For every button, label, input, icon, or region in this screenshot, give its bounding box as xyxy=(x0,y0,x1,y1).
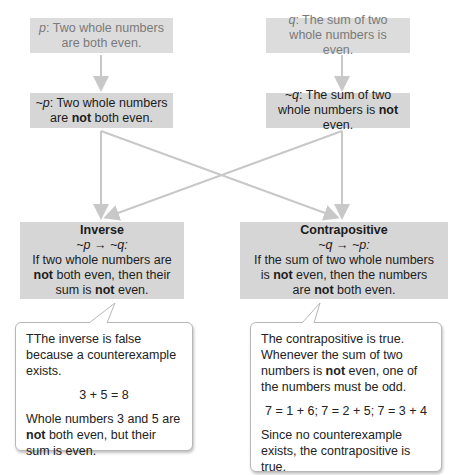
contrapositive-callout: The contrapositive is true. Whenever the… xyxy=(250,322,442,472)
contrapositive-form: ~q → ~p: xyxy=(318,238,369,253)
inverse-callout-tail xyxy=(85,302,125,324)
not-p-bold: not xyxy=(72,111,91,125)
inverse-line3a: sum is xyxy=(55,283,95,297)
inverse-note-equation: 3 + 5 = 8 xyxy=(26,387,182,403)
inverse-note-text-a: Whole numbers 3 and 5 are xyxy=(26,412,180,426)
contrapositive-title: Contrapositive xyxy=(300,223,388,238)
contrapositive-line1: If the sum of two whole numbers xyxy=(254,253,434,268)
inverse-form: ~p → ~q: xyxy=(76,238,127,253)
contrapositive-note-bold: not xyxy=(326,364,345,378)
symbol-not-p: ~p xyxy=(35,96,49,110)
inverse-title: Inverse xyxy=(80,223,124,238)
contrapositive-note-equation: 7 = 1 + 6; 7 = 2 + 5; 7 = 3 + 4 xyxy=(261,403,431,419)
contrapositive-bold2: not xyxy=(314,283,333,297)
statement-q-text: : The sum of two whole numbers is even. xyxy=(289,13,387,57)
arrow-not-p-to-contrapositive xyxy=(101,131,336,217)
arrow-not-q-to-inverse xyxy=(107,131,342,217)
contrapositive-line3b: both even. xyxy=(334,283,396,297)
contrapositive-box: Contrapositive ~q → ~p: If the sum of tw… xyxy=(240,222,448,299)
contrapositive-line2a: is xyxy=(261,268,274,282)
contrapositive-callout-tail xyxy=(298,302,338,324)
inverse-note-text-b: both even, but their sum is even. xyxy=(26,428,156,458)
statement-p-text: : Two whole numbers are both even. xyxy=(46,21,164,50)
inverse-line3b: even. xyxy=(114,283,148,297)
inverse-line2: both even, then their xyxy=(53,268,170,282)
inverse-bold1: not xyxy=(34,268,53,282)
inverse-bold2: not xyxy=(95,283,114,297)
inverse-box: Inverse ~p → ~q: If two whole numbers ar… xyxy=(20,222,184,299)
statement-p: p: Two whole numbers are both even. xyxy=(30,18,173,53)
symbol-p: p xyxy=(39,21,46,35)
inverse-note-intro: TThe inverse is false because a countere… xyxy=(26,331,182,379)
inverse-callout: TThe inverse is false because a countere… xyxy=(15,322,193,451)
not-p-text-b: both even. xyxy=(91,111,153,125)
statement-not-p: ~p: Two whole numbers are not both even. xyxy=(30,93,173,128)
inverse-line1: If two whole numbers are xyxy=(32,253,172,268)
symbol-not-q: ~q xyxy=(285,88,299,102)
contrapositive-line3a: are xyxy=(293,283,315,297)
not-q-text-b: even. xyxy=(323,118,354,132)
contrapositive-bold1: not xyxy=(273,268,292,282)
inverse-note-bold: not xyxy=(26,428,45,442)
not-q-bold: not xyxy=(379,103,398,117)
contrapositive-line2b: even, then the numbers xyxy=(293,268,428,282)
statement-q: q: The sum of two whole numbers is even. xyxy=(266,18,410,53)
statement-not-q: ~q: The sum of two whole numbers is not … xyxy=(266,93,410,128)
contrapositive-note-conclusion: Since no counterexample exists, the cont… xyxy=(261,427,431,475)
